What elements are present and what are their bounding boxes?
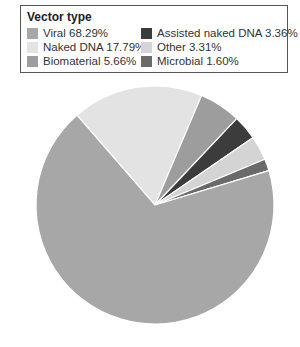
pie-chart	[0, 0, 300, 347]
